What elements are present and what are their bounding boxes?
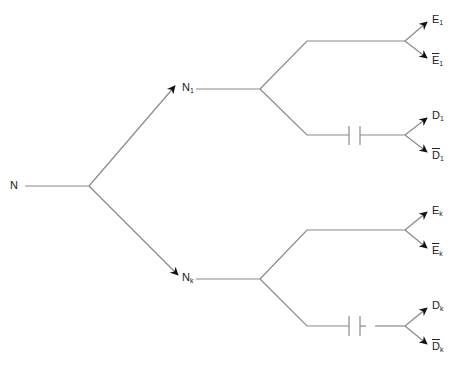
node-d1-label: D1: [432, 110, 444, 122]
node-n1-label: N1: [182, 82, 194, 94]
nk-upper-path: [260, 230, 405, 279]
edge-root-n1: [89, 86, 175, 186]
node-root-label: N: [10, 180, 18, 191]
edge-dkbar: [405, 326, 427, 344]
nk-lower-path: [260, 279, 349, 326]
edge-d1: [405, 118, 427, 135]
node-d1bar-label: D1: [432, 150, 444, 162]
node-dkbar-label: Dk: [432, 341, 443, 353]
node-e1-label: E1: [432, 14, 443, 26]
node-ekbar-label: Ek: [432, 245, 443, 257]
node-ek-label: Ek: [432, 205, 443, 217]
edge-d1bar: [405, 135, 427, 152]
edge-e1: [405, 22, 427, 41]
edge-ekbar: [405, 230, 427, 248]
node-dk-label: Dk: [432, 300, 443, 312]
node-e1bar-label: E1: [432, 55, 443, 67]
node-nk-label: Nk: [182, 272, 193, 284]
edge-dk: [405, 308, 427, 326]
n1-lower-path: [260, 89, 349, 135]
edge-ek: [405, 212, 427, 230]
n1-upper-path: [260, 41, 405, 89]
edge-e1bar: [405, 41, 427, 58]
tree-diagram: [0, 0, 457, 372]
edge-root-nk: [89, 186, 178, 275]
